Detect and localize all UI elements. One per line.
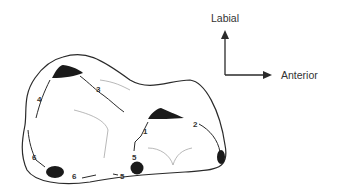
cusp-distobuccal (52, 65, 83, 78)
anterior-arrowhead-icon (263, 71, 272, 79)
labial-label: Labial (211, 12, 239, 24)
cusp-mesiobuccal (148, 108, 184, 119)
cusp-lingual (131, 162, 144, 175)
ridge-3 (80, 76, 124, 112)
ridge-6b (82, 175, 96, 178)
faint-ridge-d (173, 148, 192, 165)
ridge-5b (113, 174, 118, 175)
faint-ridge-c (148, 148, 173, 165)
anterior-label: Anterior (281, 69, 318, 81)
cusp-mesiolingual (217, 150, 225, 164)
label-6a: 6 (32, 153, 37, 162)
ridge-6 (28, 130, 45, 167)
label-5a: 5 (132, 153, 137, 162)
label-3: 3 (96, 85, 101, 94)
faint-ridge-b (74, 110, 108, 158)
label-1: 1 (143, 127, 148, 136)
ridge-2 (199, 124, 220, 152)
label-4: 4 (37, 95, 42, 104)
faint-ridge-a (100, 80, 130, 90)
labial-arrowhead-icon (221, 30, 229, 39)
label-2: 2 (193, 120, 198, 129)
label-5b: 5 (120, 172, 125, 181)
tooth-outline-diagram: 1 2 3 4 5 5 6 6 Labial Anterior (0, 0, 339, 193)
cusp-distolingual (46, 166, 64, 178)
label-6b: 6 (72, 172, 77, 181)
